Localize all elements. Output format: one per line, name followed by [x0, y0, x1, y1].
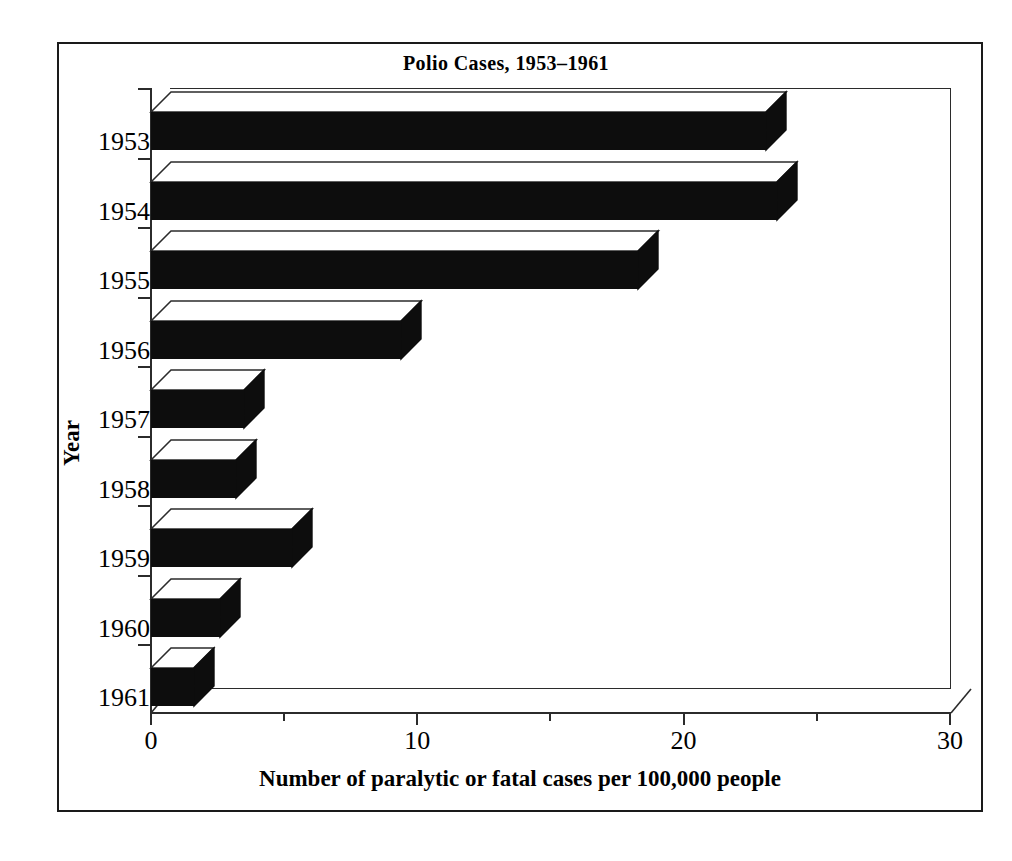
bar-front-face-1956: [151, 321, 401, 359]
y-tick-1956: [138, 297, 151, 299]
bar-front-face-1953: [151, 112, 766, 150]
y-tick-1955: [138, 227, 151, 229]
bar-1955: [151, 251, 638, 289]
bar-top-face-1954: [151, 162, 799, 184]
bar-side-face-1960: [219, 579, 241, 639]
x-tick-label-0: 0: [121, 726, 181, 756]
bar-top-face-1955: [151, 231, 660, 253]
bar-front-face-1954: [151, 182, 777, 220]
bar-side-face-1958: [235, 440, 257, 500]
y-tick-1958: [138, 436, 151, 438]
x-tick-0: [150, 714, 152, 725]
x-minor-tick-15: [549, 714, 551, 721]
bar-front-face-1959: [151, 529, 292, 567]
bar-side-face-1953: [765, 92, 787, 152]
bar-1958: [151, 460, 236, 498]
y-tick-1953: [138, 88, 151, 90]
bar-1956: [151, 321, 401, 359]
x-minor-tick-25: [816, 714, 818, 721]
y-tick-label-1961: 1961: [84, 683, 150, 713]
y-tick-label-1953: 1953: [84, 127, 150, 157]
bar-1953: [151, 112, 766, 150]
bar-1954: [151, 182, 777, 220]
x-tick-10: [416, 714, 418, 725]
bar-side-face-1956: [400, 301, 422, 361]
x-minor-tick-5: [283, 714, 285, 721]
y-tick-label-1960: 1960: [84, 614, 150, 644]
y-tick-1957: [138, 366, 151, 368]
y-tick-label-1959: 1959: [84, 544, 150, 574]
y-tick-label-1957: 1957: [84, 405, 150, 435]
bar-1959: [151, 529, 292, 567]
y-tick-1960: [138, 575, 151, 577]
y-tick-label-1958: 1958: [84, 475, 150, 505]
x-tick-label-20: 20: [654, 726, 714, 756]
y-tick-1959: [138, 505, 151, 507]
y-tick-1954: [138, 158, 151, 160]
y-tick-label-1955: 1955: [84, 266, 150, 296]
bar-front-face-1957: [151, 390, 244, 428]
y-axis-title: Year: [59, 363, 85, 523]
bar-front-face-1960: [151, 599, 220, 637]
y-tick-1961: [138, 644, 151, 646]
x-tick-30: [949, 714, 951, 725]
x-tick-label-10: 10: [387, 726, 447, 756]
bar-side-face-1959: [291, 509, 313, 569]
x-tick-label-30: 30: [920, 726, 980, 756]
plot-area: 0102030 19531954195519561957195819591960…: [0, 0, 1012, 861]
bar-1961: [151, 668, 194, 706]
bar-1960: [151, 599, 220, 637]
bar-front-face-1958: [151, 460, 236, 498]
bar-top-face-1956: [151, 301, 423, 323]
bar-1957: [151, 390, 244, 428]
bar-side-face-1955: [637, 231, 659, 291]
bar-side-face-1957: [243, 370, 265, 430]
bar-front-face-1961: [151, 668, 194, 706]
y-tick-label-1954: 1954: [84, 197, 150, 227]
bar-side-face-1954: [776, 162, 798, 222]
bar-side-face-1961: [193, 648, 215, 708]
y-tick-label-1956: 1956: [84, 336, 150, 366]
x-tick-20: [683, 714, 685, 725]
figure-canvas: Polio Cases, 1953–1961 0102030 195319541…: [0, 0, 1012, 861]
bar-top-face-1959: [151, 509, 314, 531]
x-axis-title: Number of paralytic or fatal cases per 1…: [57, 766, 983, 792]
bar-top-face-1953: [151, 92, 788, 114]
bar-front-face-1955: [151, 251, 638, 289]
